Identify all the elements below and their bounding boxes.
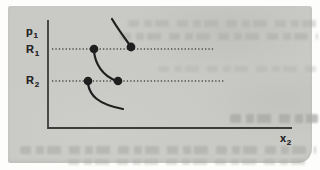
point-r2-left bbox=[84, 77, 93, 86]
r1-label-base: R bbox=[26, 43, 34, 55]
axes bbox=[48, 20, 292, 128]
point-r1-right bbox=[127, 43, 136, 52]
r1-label-subscript: 1 bbox=[35, 49, 40, 58]
y-axis-label: p1 bbox=[26, 26, 38, 37]
scanned-page: p1 R1 R2 x2 bbox=[0, 0, 320, 170]
curve-below-r2 bbox=[88, 84, 123, 109]
x-axis-label-base: x bbox=[280, 132, 286, 144]
x-axis-label-subscript: 2 bbox=[287, 138, 292, 147]
y-axis-label-base: p bbox=[26, 25, 33, 37]
curve-r1-to-r2 bbox=[94, 51, 117, 81]
point-r1-left bbox=[90, 45, 99, 54]
point-r2-right bbox=[114, 77, 123, 86]
x-axis-label: x2 bbox=[280, 133, 291, 144]
diagram-canvas bbox=[0, 0, 320, 170]
r1-label: R1 bbox=[26, 44, 39, 55]
r2-label-base: R bbox=[26, 74, 34, 86]
upper-demand-segment bbox=[112, 19, 129, 44]
y-axis-label-subscript: 1 bbox=[33, 31, 38, 40]
r2-label-subscript: 2 bbox=[35, 80, 40, 89]
r2-label: R2 bbox=[26, 75, 39, 86]
